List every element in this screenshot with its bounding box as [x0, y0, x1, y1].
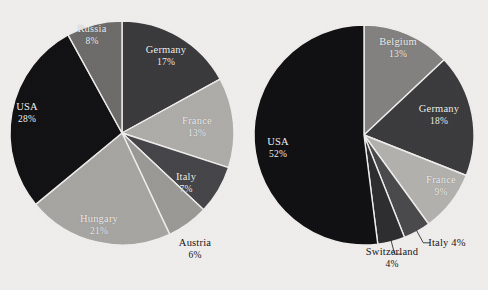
pie-slice-usa[interactable] — [254, 25, 378, 245]
pie-charts-canvas — [0, 0, 488, 290]
left-pie-slices — [10, 21, 234, 245]
leader-line-switzerland — [391, 241, 402, 255]
leader-line-italy — [417, 230, 431, 242]
right-pie-slices — [254, 25, 474, 245]
pie-charts-figure: Germany17%France13%Italy7%Austria6%Hunga… — [0, 0, 488, 290]
